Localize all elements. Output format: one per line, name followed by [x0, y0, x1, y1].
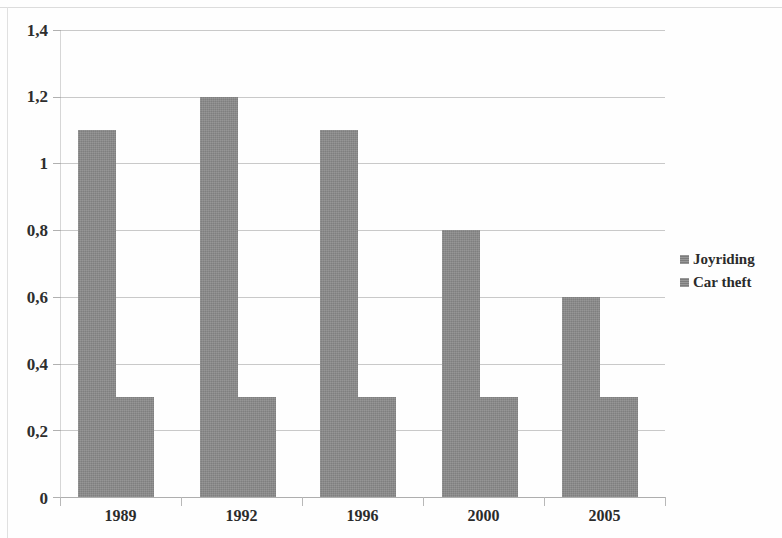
- y-tick-label-0-2: 0,2: [27, 423, 48, 440]
- x-tick-0: [60, 497, 61, 506]
- chart-legend: Joyriding Car theft: [680, 248, 780, 294]
- y-tick-label-0-4: 0,4: [27, 356, 48, 373]
- x-axis-label-1989: 1989: [60, 508, 181, 524]
- x-axis-label-1996: 1996: [302, 508, 423, 524]
- bar-group-1989: [60, 30, 181, 497]
- legend-swatch-car-theft-icon: [680, 278, 689, 287]
- bar-1992-joyriding[interactable]: [200, 97, 238, 497]
- bar-1996-joyriding[interactable]: [320, 130, 358, 497]
- x-tick-2: [302, 497, 303, 506]
- y-tick-label-0-8: 0,8: [27, 222, 48, 239]
- bar-chart: 1,4 1,2 1 0,8 0,6 0,4 0,2 0: [0, 0, 782, 538]
- x-axis-label-1992: 1992: [181, 508, 302, 524]
- legend-label-joyriding: Joyriding: [693, 252, 755, 267]
- x-axis-label-2005: 2005: [544, 508, 665, 524]
- bar-1989-car-theft[interactable]: [116, 397, 154, 497]
- bar-group-2000: [423, 30, 544, 497]
- bar-group-2005: [544, 30, 665, 497]
- bar-2005-car-theft[interactable]: [600, 397, 638, 497]
- bar-group-1992: [181, 30, 302, 497]
- bar-group-1996: [302, 30, 423, 497]
- bar-1992-car-theft[interactable]: [238, 397, 276, 497]
- y-axis-labels: 1,4 1,2 1 0,8 0,6 0,4 0,2 0: [0, 30, 48, 497]
- bar-2000-joyriding[interactable]: [442, 230, 480, 497]
- plot-area: [60, 30, 665, 497]
- x-axis-line: [60, 497, 666, 498]
- legend-swatch-joyriding-icon: [680, 255, 689, 264]
- y-tick-label-1-4: 1,4: [27, 22, 48, 39]
- bar-2000-car-theft[interactable]: [480, 397, 518, 497]
- x-tick-1: [181, 497, 182, 506]
- legend-label-car-theft: Car theft: [693, 275, 751, 290]
- y-tick-label-0-6: 0,6: [27, 289, 48, 306]
- scan-edge-top: [0, 7, 782, 8]
- legend-item-joyriding[interactable]: Joyriding: [680, 248, 780, 271]
- bars-layer: [60, 30, 665, 497]
- y-tick-label-1: 1: [40, 155, 49, 172]
- y-tick-label-0: 0: [40, 490, 49, 507]
- x-tick-5: [665, 497, 666, 506]
- y-tick-label-1-2: 1,2: [27, 88, 48, 105]
- x-tick-3: [423, 497, 424, 506]
- bar-2005-joyriding[interactable]: [562, 297, 600, 497]
- bar-1989-joyriding[interactable]: [78, 130, 116, 497]
- legend-item-car-theft[interactable]: Car theft: [680, 271, 780, 294]
- bar-1996-car-theft[interactable]: [358, 397, 396, 497]
- x-axis-label-2000: 2000: [423, 508, 544, 524]
- x-tick-4: [544, 497, 545, 506]
